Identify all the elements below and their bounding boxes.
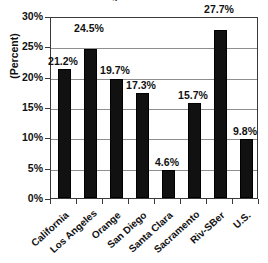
y-tick-label: 20% xyxy=(0,71,50,83)
bar-value-label: 15.7% xyxy=(170,89,216,101)
y-tick-label: 5% xyxy=(0,162,50,174)
y-tick-label: 30% xyxy=(0,10,50,22)
bar xyxy=(188,103,201,198)
bar xyxy=(136,93,149,198)
bar xyxy=(110,79,123,199)
bar-value-label: 9.8% xyxy=(222,125,268,137)
x-tick-mark xyxy=(102,199,103,204)
x-tick-mark xyxy=(128,199,129,204)
x-tick-mark xyxy=(180,199,181,204)
x-tick-mark xyxy=(258,199,259,204)
x-tick-mark xyxy=(50,199,51,204)
y-tick-label: 10% xyxy=(0,131,50,143)
bar-value-label: 4.6% xyxy=(144,156,190,168)
bar-value-label: 24.5% xyxy=(66,22,112,34)
y-tick-label: 0% xyxy=(0,192,50,204)
bar xyxy=(240,139,253,198)
bar-value-label: 17.3% xyxy=(118,79,164,91)
x-tick-mark xyxy=(154,199,155,204)
bar-value-label: 19.7% xyxy=(92,64,138,76)
bar xyxy=(214,30,227,198)
bar xyxy=(162,170,175,198)
y-axis-ticks: 0%5%10%15%20%25%30% xyxy=(0,0,50,263)
bar xyxy=(58,69,71,198)
y-tick-label: 25% xyxy=(0,40,50,52)
x-tick-mark xyxy=(76,199,77,204)
x-tick-mark xyxy=(232,199,233,204)
y-tick-label: 15% xyxy=(0,101,50,113)
bar-chart: Regional Rates (Percent) 0%5%10%15%20%25… xyxy=(0,0,268,263)
bar-value-label: 21.2% xyxy=(40,55,86,67)
x-tick-mark xyxy=(206,199,207,204)
bar-value-label: 27.7% xyxy=(196,3,242,15)
plot-area xyxy=(50,17,258,199)
